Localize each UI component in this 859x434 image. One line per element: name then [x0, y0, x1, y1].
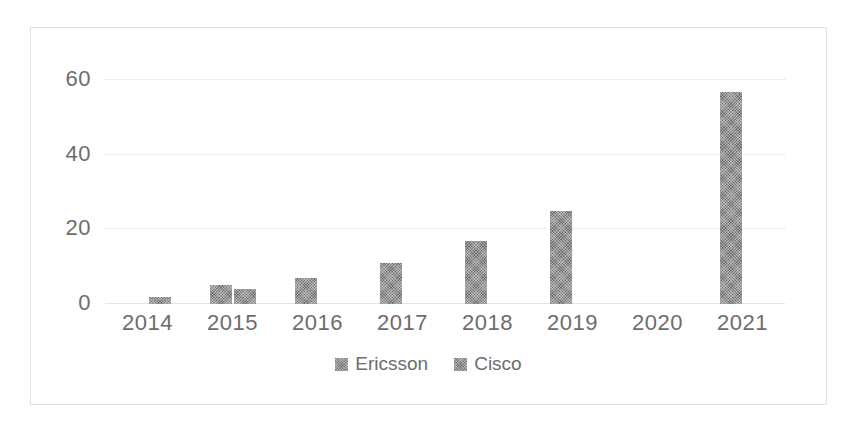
chart-legend: EricssonCisco — [31, 353, 826, 375]
x-tick-label-2016: 2016 — [292, 310, 343, 336]
x-axis: 20142015201620172018201920202021 — [105, 310, 785, 344]
legend-swatch-cisco-icon — [454, 358, 467, 371]
gridline-40: 40 — [105, 154, 785, 155]
bar-ericsson-2018[interactable] — [465, 241, 487, 304]
x-tick-label-2019: 2019 — [547, 310, 598, 336]
bar-ericsson-2021[interactable] — [720, 92, 742, 304]
bar-ericsson-2017[interactable] — [380, 263, 402, 304]
x-tick-label-2014: 2014 — [122, 310, 173, 336]
plot-area: 0204060 — [105, 58, 785, 304]
legend-item-cisco[interactable]: Cisco — [454, 353, 522, 375]
x-tick-label-2021: 2021 — [717, 310, 768, 336]
bar-ericsson-2019[interactable] — [550, 211, 572, 304]
gridline-20: 20 — [105, 228, 785, 229]
legend-item-ericsson[interactable]: Ericsson — [335, 353, 428, 375]
gridline-60: 60 — [105, 79, 785, 80]
axis-baseline: 0 — [105, 303, 785, 304]
y-tick-label: 60 — [66, 67, 91, 93]
x-tick-label-2020: 2020 — [632, 310, 683, 336]
y-tick-label: 0 — [78, 290, 91, 316]
bar-cisco-2015[interactable] — [234, 289, 256, 304]
chart-frame: 0204060 20142015201620172018201920202021… — [30, 27, 827, 405]
x-tick-label-2018: 2018 — [462, 310, 513, 336]
legend-label: Cisco — [474, 353, 522, 375]
bar-ericsson-2015[interactable] — [210, 285, 232, 304]
x-tick-label-2015: 2015 — [207, 310, 258, 336]
x-tick-label-2017: 2017 — [377, 310, 428, 336]
y-tick-label: 20 — [66, 216, 91, 242]
legend-swatch-ericsson-icon — [335, 358, 348, 371]
bar-ericsson-2016[interactable] — [295, 278, 317, 304]
y-tick-label: 40 — [66, 141, 91, 167]
bar-cisco-2014[interactable] — [149, 297, 171, 304]
legend-label: Ericsson — [355, 353, 428, 375]
